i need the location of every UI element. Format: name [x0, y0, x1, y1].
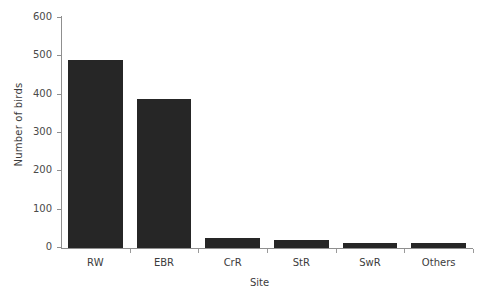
bar-rw	[68, 60, 123, 248]
bar-str	[274, 240, 329, 248]
y-axis-tick-label: 200	[33, 164, 52, 176]
bar-ebr	[137, 99, 192, 249]
x-axis-title: Site	[0, 277, 487, 288]
x-axis-tick-mark	[198, 249, 199, 253]
bar-crr	[205, 238, 260, 248]
x-axis-tick-label: RW	[61, 256, 130, 269]
x-axis-tick-mark	[404, 249, 405, 253]
x-axis-tick-mark	[267, 249, 268, 253]
x-axis-tick-mark	[130, 249, 131, 253]
x-axis-title-label: Site	[250, 277, 269, 288]
x-axis-tick-label: SwR	[336, 256, 405, 269]
bar-chart-figure: Number of birds 0100200300400500600 RWEB…	[0, 0, 487, 300]
y-axis-tick-label: 500	[33, 49, 52, 61]
y-axis-tick-label: 0	[46, 241, 52, 253]
bar-others	[411, 243, 466, 248]
x-axis-tick-mark	[473, 249, 474, 253]
y-axis-tick-label: 100	[33, 203, 52, 215]
x-axis-tick-mark	[336, 249, 337, 253]
x-axis-tick-label: StR	[267, 256, 336, 269]
y-axis-tick-label: 400	[33, 88, 52, 100]
x-axis-tick-label: Others	[404, 256, 473, 269]
y-axis-title: Number of birds	[8, 0, 30, 248]
y-axis-tick-label: 600	[33, 11, 52, 23]
plot-area	[61, 18, 473, 248]
x-axis-tick-label: CrR	[198, 256, 267, 269]
x-axis-tick-label: EBR	[130, 256, 199, 269]
y-axis-tick-label: 300	[33, 126, 52, 138]
y-axis-title-label: Number of birds	[14, 82, 25, 166]
bar-swr	[343, 243, 398, 248]
